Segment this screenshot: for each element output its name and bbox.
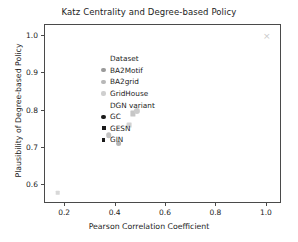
y-tick-label: 0.8: [26, 105, 38, 114]
legend-item[interactable]: BA2Motif: [97, 65, 183, 77]
data-point: ×: [262, 32, 271, 41]
legend-circle-icon: [101, 91, 105, 95]
legend-circle-icon: [101, 80, 105, 84]
data-point: [55, 191, 60, 196]
y-tick-mark: [41, 110, 44, 111]
legend-item-label: GC: [110, 113, 121, 120]
x-tick-label: 0.8: [209, 208, 221, 217]
legend-marker-cell: [97, 138, 110, 141]
legend-marker-cell: [97, 80, 110, 84]
legend-circle-icon: [101, 68, 105, 72]
legend-item-label: GIN: [110, 136, 123, 143]
y-tick-mark: [41, 72, 44, 73]
legend-circle-icon: [101, 115, 105, 119]
legend-square-icon: [102, 138, 105, 141]
y-tick-label: 0.7: [26, 143, 38, 152]
y-tick-label: 0.6: [26, 180, 38, 189]
x-tick-mark: [165, 203, 166, 206]
y-tick-label: 1.0: [26, 31, 38, 40]
x-tick-label: 0.6: [159, 208, 171, 217]
legend-group-title: Dataset: [110, 55, 139, 62]
legend-group-title: DGN variant: [110, 102, 155, 109]
x-tick-mark: [115, 203, 116, 206]
plot-area: × DatasetBA2MotifBA2gridGridHouseDGN var…: [44, 24, 281, 203]
legend-group-title-row: DGN variant: [97, 99, 183, 111]
x-tick-label: 0.4: [109, 208, 121, 217]
y-tick-mark: [41, 35, 44, 36]
y-axis-label: Plausibility of Degree-based Policy: [14, 31, 23, 191]
legend-item[interactable]: BA2grid: [97, 76, 183, 88]
legend-item[interactable]: GIN: [97, 134, 183, 146]
legend-item-label: BA2Motif: [110, 67, 143, 74]
y-tick-label: 0.9: [26, 68, 38, 77]
x-tick-label: 0.2: [58, 208, 70, 217]
x-tick-mark: [64, 203, 65, 206]
y-tick-mark: [41, 184, 44, 185]
x-tick-mark: [215, 203, 216, 206]
legend-marker-cell: [97, 91, 110, 95]
chart-title: Katz Centrality and Degree-based Policy: [0, 7, 298, 17]
legend-marker-cell: [97, 115, 110, 119]
chart-legend: DatasetBA2MotifBA2gridGridHouseDGN varia…: [97, 53, 183, 146]
legend-marker-cell: [97, 126, 110, 130]
x-tick-mark: [266, 203, 267, 206]
legend-item-label: GESN: [110, 125, 130, 132]
legend-item-label: BA2grid: [110, 78, 139, 85]
legend-item[interactable]: GC: [97, 111, 183, 123]
scatter-chart-figure: Katz Centrality and Degree-based Policy …: [0, 0, 298, 242]
legend-marker-cell: [97, 68, 110, 72]
x-axis-label: Pearson Correlation Coefficient: [0, 222, 298, 231]
legend-item[interactable]: GridHouse: [97, 88, 183, 100]
legend-item[interactable]: GESN: [97, 123, 183, 135]
y-tick-mark: [41, 147, 44, 148]
x-tick-label: 1.0: [260, 208, 272, 217]
legend-group-title-row: Dataset: [97, 53, 183, 65]
legend-item-label: GridHouse: [110, 90, 148, 97]
legend-square-icon: [102, 126, 106, 130]
